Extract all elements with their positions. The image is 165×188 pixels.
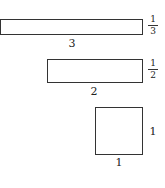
fraction-denominator: 2 (148, 70, 158, 80)
rectangle-2-by-one-half (47, 59, 143, 83)
length-label-3: 3 (66, 38, 78, 49)
fraction-denominator: 3 (148, 26, 158, 36)
width-label-one-third: 1 3 (148, 15, 158, 36)
fraction-numerator: 1 (148, 15, 158, 26)
length-label-2: 2 (88, 86, 100, 97)
width-label-one-half: 1 2 (148, 59, 158, 80)
length-label-1: 1 (113, 157, 125, 168)
rectangle-3-by-one-third (0, 19, 143, 35)
square-1-by-1 (95, 107, 143, 155)
fraction-numerator: 1 (148, 59, 158, 70)
width-label-1: 1 (148, 126, 158, 137)
